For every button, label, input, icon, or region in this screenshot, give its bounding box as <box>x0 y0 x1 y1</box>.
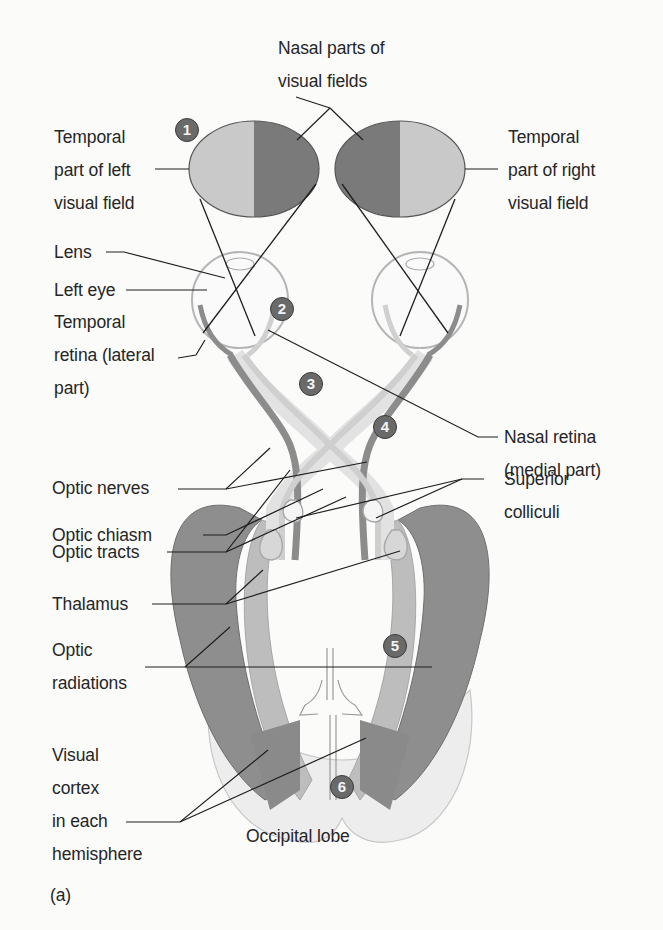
label-temporal-retina: Temporal retina (lateral part) <box>54 306 155 405</box>
label-nasal-parts: Nasal parts of visual fields <box>278 32 385 98</box>
step-marker-5: 5 <box>383 634 407 658</box>
label-left-eye: Left eye <box>54 274 115 307</box>
panel-label: (a) <box>50 879 71 912</box>
label-optic-tracts: Optic tracts <box>52 536 139 569</box>
step-marker-3: 3 <box>299 372 323 396</box>
label-visual-cortex: Visual cortex in each hemisphere <box>52 739 142 871</box>
step-marker-2: 2 <box>270 297 294 321</box>
label-optic-nerves: Optic nerves <box>52 472 149 505</box>
right-eyeball <box>372 252 468 355</box>
label-temporal-left-field: Temporal part of left visual field <box>54 121 135 220</box>
label-lens: Lens <box>54 236 92 269</box>
label-occipital-lobe: Occipital lobe <box>246 820 350 853</box>
left-optic-radiation <box>171 505 312 810</box>
step-marker-1: 1 <box>175 118 199 142</box>
label-superior-colliculi: Superior colliculi <box>504 463 569 529</box>
label-optic-radiations: Optic radiations <box>52 634 127 700</box>
left-visual-field <box>189 121 319 217</box>
step-marker-6: 6 <box>330 775 354 799</box>
visual-pathway-diagram: Nasal parts of visual fields Temporal pa… <box>0 0 663 930</box>
step-marker-4: 4 <box>373 415 397 439</box>
label-temporal-right-field: Temporal part of right visual field <box>508 121 595 220</box>
right-optic-radiation <box>348 505 489 810</box>
label-thalamus: Thalamus <box>52 588 128 621</box>
